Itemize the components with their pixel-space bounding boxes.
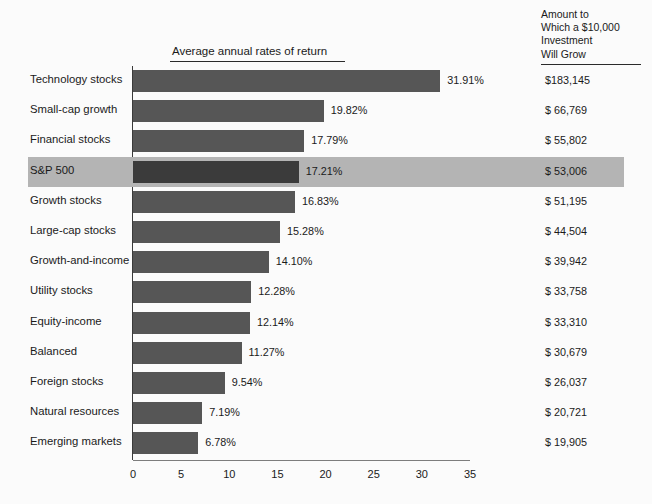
category-label: Utility stocks [30, 284, 93, 296]
bar-value-label: 17.79% [311, 134, 348, 146]
bar-chart-figure: Amount to Which a $10,000 Investment Wil… [0, 0, 652, 504]
bar-value-label: 6.78% [205, 436, 236, 448]
bar [133, 221, 280, 243]
bar [133, 342, 242, 364]
amount-value: $ 55,802 [545, 134, 587, 146]
bar-rows-container: Technology stocks31.91%$183,145Small-cap… [0, 66, 652, 458]
x-axis-tick-label: 15 [271, 468, 283, 480]
x-axis-tick-label: 10 [223, 468, 235, 480]
table-row: S&P 50017.21%$ 53,006 [0, 157, 652, 187]
category-label: Equity-income [30, 315, 102, 327]
bar-value-label: 15.28% [287, 225, 324, 237]
category-label: Technology stocks [30, 73, 122, 85]
category-label: S&P 500 [30, 164, 74, 176]
table-row: Large-cap stocks15.28%$ 44,504 [0, 217, 652, 247]
category-label: Growth-and-income [30, 254, 129, 266]
amount-value: $ 53,006 [545, 165, 587, 177]
table-row: Technology stocks31.91%$183,145 [0, 66, 652, 96]
bar [133, 432, 198, 454]
table-row: Emerging markets6.78%$ 19,905 [0, 428, 652, 458]
category-label: Emerging markets [30, 435, 122, 447]
bar [133, 100, 324, 122]
bar [133, 312, 250, 334]
bar-value-label: 14.10% [276, 255, 313, 267]
bar-value-label: 31.91% [447, 74, 484, 86]
x-axis-tick-label: 25 [368, 468, 380, 480]
bar-value-label: 17.21% [306, 165, 343, 177]
bar [133, 161, 299, 183]
bar-value-label: 11.27% [249, 346, 285, 358]
bar-value-label: 12.14% [257, 316, 294, 328]
x-axis-tick-label: 0 [130, 468, 136, 480]
table-row: Balanced11.27%$ 30,679 [0, 338, 652, 368]
category-label: Balanced [30, 345, 77, 357]
bar [133, 70, 440, 92]
amount-value: $ 33,758 [545, 285, 587, 297]
chart-title-rule [170, 61, 345, 62]
category-label: Growth stocks [30, 194, 102, 206]
amount-column-header: Amount to Which a $10,000 Investment Wil… [541, 8, 645, 61]
category-label: Natural resources [30, 405, 119, 417]
bar-value-label: 7.19% [209, 406, 240, 418]
bar [133, 130, 304, 152]
table-row: Financial stocks17.79%$ 55,802 [0, 126, 652, 156]
bar [133, 251, 269, 273]
amount-value: $183,145 [545, 74, 590, 86]
amount-value: $ 39,942 [545, 255, 587, 267]
category-label: Large-cap stocks [30, 224, 116, 236]
x-axis-tick-label: 20 [319, 468, 331, 480]
amount-value: $ 19,905 [545, 436, 587, 448]
table-row: Utility stocks12.28%$ 33,758 [0, 277, 652, 307]
category-label: Small-cap growth [30, 103, 117, 115]
chart-title: Average annual rates of return [172, 45, 327, 57]
amount-value: $ 44,504 [545, 225, 587, 237]
amount-value: $ 26,037 [545, 376, 587, 388]
amount-column-header-rule [541, 64, 641, 65]
table-row: Foreign stocks9.54%$ 26,037 [0, 368, 652, 398]
x-axis-tick-label: 5 [178, 468, 184, 480]
amount-value: $ 33,310 [545, 316, 587, 328]
table-row: Natural resources7.19%$ 20,721 [0, 398, 652, 428]
category-label: Foreign stocks [30, 375, 103, 387]
amount-value: $ 51,195 [545, 195, 587, 207]
bar-value-label: 9.54% [232, 376, 263, 388]
table-row: Growth-and-income14.10%$ 39,942 [0, 247, 652, 277]
bar-value-label: 16.83% [302, 195, 339, 207]
amount-value: $ 30,679 [545, 346, 587, 358]
amount-value: $ 20,721 [545, 406, 587, 418]
bar-value-label: 12.28% [258, 285, 295, 297]
table-row: Equity-income12.14%$ 33,310 [0, 308, 652, 338]
bar [133, 402, 202, 424]
x-axis-line [133, 460, 470, 461]
amount-value: $ 66,769 [545, 104, 587, 116]
table-row: Growth stocks16.83%$ 51,195 [0, 187, 652, 217]
x-axis-tick-label: 35 [464, 468, 476, 480]
bar [133, 281, 251, 303]
category-label: Financial stocks [30, 133, 110, 145]
bar [133, 191, 295, 213]
x-axis-tick-label: 30 [416, 468, 428, 480]
bar-value-label: 19.82% [331, 104, 368, 116]
bar [133, 372, 225, 394]
table-row: Small-cap growth19.82%$ 66,769 [0, 96, 652, 126]
